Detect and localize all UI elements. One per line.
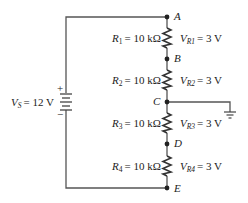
vr2-label: VR2= 3 V <box>180 74 222 88</box>
vr3-label: VR3= 3 V <box>180 117 222 131</box>
vr4-label: VR4= 3 V <box>180 160 222 174</box>
node-d-label: D <box>173 137 182 149</box>
battery-plus-sign: + <box>57 82 63 94</box>
r2-label: R2= 10 kΩ <box>111 74 161 88</box>
r4-label: R4= 10 kΩ <box>111 160 161 174</box>
resistor-r3-icon <box>163 113 171 133</box>
node-d-dot <box>165 142 170 147</box>
node-e-dot <box>165 186 170 191</box>
node-a-dot <box>165 15 170 20</box>
circuit-svg: A B C D E + − VS= 12 V R1= 10 kΩ R2= 10 … <box>0 0 248 203</box>
resistor-r2-icon <box>163 70 171 90</box>
source-voltage-label: VS= 12 V <box>11 96 54 110</box>
resistor-r1-icon <box>163 28 171 48</box>
battery-minus-sign: − <box>57 108 63 120</box>
voltage-divider-diagram: A B C D E + − VS= 12 V R1= 10 kΩ R2= 10 … <box>0 0 248 203</box>
r1-label: R1= 10 kΩ <box>111 32 161 46</box>
vr1-label: VR1= 3 V <box>180 32 222 46</box>
node-c-dot <box>165 100 170 105</box>
node-b-label: B <box>174 52 181 64</box>
ground-icon <box>224 112 236 118</box>
wire-ground <box>167 102 230 112</box>
r3-label: R3= 10 kΩ <box>111 117 161 131</box>
node-b-dot <box>165 57 170 62</box>
node-a-label: A <box>173 10 181 22</box>
resistor-r4-icon <box>163 156 171 176</box>
node-e-label: E <box>173 182 181 194</box>
node-c-label: C <box>153 95 161 107</box>
